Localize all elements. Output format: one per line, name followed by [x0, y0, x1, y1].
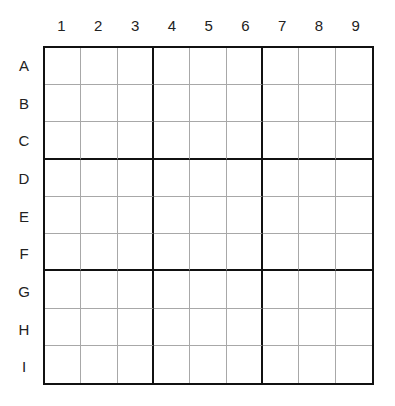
grid-cell[interactable]: [227, 234, 263, 271]
grid-cell[interactable]: [45, 85, 81, 122]
grid-cell[interactable]: [336, 122, 372, 159]
grid-cell[interactable]: [299, 160, 335, 197]
grid-cell[interactable]: [263, 122, 299, 159]
grid-cell[interactable]: [118, 85, 154, 122]
column-label: 6: [227, 17, 264, 34]
grid-cell[interactable]: [45, 122, 81, 159]
row-label: I: [14, 348, 34, 386]
grid-cell[interactable]: [45, 346, 81, 383]
grid-cell[interactable]: [263, 346, 299, 383]
grid-cell[interactable]: [81, 48, 117, 85]
row-label: B: [14, 85, 34, 123]
grid-cell[interactable]: [336, 160, 372, 197]
row-label: G: [14, 273, 34, 311]
grid-cell[interactable]: [299, 234, 335, 271]
grid-cell[interactable]: [81, 122, 117, 159]
grid-cell[interactable]: [263, 160, 299, 197]
grid-cell[interactable]: [336, 197, 372, 234]
grid-cell[interactable]: [190, 271, 226, 308]
grid-cell[interactable]: [154, 160, 190, 197]
grid-cell[interactable]: [227, 309, 263, 346]
grid-cell[interactable]: [81, 346, 117, 383]
grid-cell[interactable]: [81, 271, 117, 308]
grid-cell[interactable]: [81, 234, 117, 271]
grid-cell[interactable]: [81, 197, 117, 234]
grid-cell[interactable]: [227, 346, 263, 383]
grid-cell[interactable]: [190, 122, 226, 159]
grid-cell[interactable]: [154, 197, 190, 234]
grid-cell[interactable]: [336, 48, 372, 85]
grid-cell[interactable]: [118, 160, 154, 197]
grid-cell[interactable]: [263, 85, 299, 122]
grid-cell[interactable]: [227, 160, 263, 197]
grid-cell[interactable]: [299, 197, 335, 234]
grid-cell[interactable]: [81, 85, 117, 122]
grid-cell[interactable]: [190, 234, 226, 271]
grid-cell[interactable]: [299, 48, 335, 85]
row-label: E: [14, 198, 34, 236]
grid-cell[interactable]: [81, 309, 117, 346]
grid-cell[interactable]: [190, 309, 226, 346]
grid-cell[interactable]: [227, 197, 263, 234]
grid-cell[interactable]: [154, 271, 190, 308]
grid-cell[interactable]: [336, 346, 372, 383]
grid-cell[interactable]: [299, 346, 335, 383]
grid-cell[interactable]: [154, 234, 190, 271]
row-label: H: [14, 311, 34, 349]
grid-cell[interactable]: [154, 309, 190, 346]
column-label: 1: [43, 17, 80, 34]
grid-cell[interactable]: [336, 85, 372, 122]
column-label: 4: [153, 17, 190, 34]
grid-cell[interactable]: [45, 234, 81, 271]
grid-cell[interactable]: [81, 160, 117, 197]
grid-cell[interactable]: [118, 122, 154, 159]
grid-cell[interactable]: [227, 271, 263, 308]
grid-cell[interactable]: [299, 271, 335, 308]
column-label: 9: [337, 17, 374, 34]
grid-cell[interactable]: [45, 48, 81, 85]
grid-cell[interactable]: [299, 85, 335, 122]
grid-cell[interactable]: [118, 48, 154, 85]
grid-cell[interactable]: [190, 197, 226, 234]
grid-cell[interactable]: [45, 271, 81, 308]
grid-cell[interactable]: [45, 309, 81, 346]
column-label: 3: [117, 17, 154, 34]
grid-cell[interactable]: [118, 309, 154, 346]
grid-cell[interactable]: [263, 271, 299, 308]
grid-cell[interactable]: [336, 234, 372, 271]
grid-cell[interactable]: [154, 122, 190, 159]
row-label: D: [14, 160, 34, 198]
column-label: 2: [80, 17, 117, 34]
grid-cell[interactable]: [154, 48, 190, 85]
grid-cell[interactable]: [263, 48, 299, 85]
grid-cell[interactable]: [227, 85, 263, 122]
grid-cell[interactable]: [299, 122, 335, 159]
grid-cell[interactable]: [154, 85, 190, 122]
column-label: 5: [190, 17, 227, 34]
grid-cell[interactable]: [263, 197, 299, 234]
grid-cell[interactable]: [336, 309, 372, 346]
grid-cell[interactable]: [45, 160, 81, 197]
grid-cell[interactable]: [118, 346, 154, 383]
grid-cell[interactable]: [263, 309, 299, 346]
grid-cell[interactable]: [227, 122, 263, 159]
grid-cell[interactable]: [118, 197, 154, 234]
sudoku-grid: [43, 46, 374, 385]
grid-cell[interactable]: [45, 197, 81, 234]
column-label: 8: [300, 17, 337, 34]
grid-cell[interactable]: [190, 48, 226, 85]
grid-cell[interactable]: [299, 309, 335, 346]
grid-cell[interactable]: [263, 234, 299, 271]
column-label: 7: [264, 17, 301, 34]
grid-cell[interactable]: [118, 234, 154, 271]
grid-cell[interactable]: [118, 271, 154, 308]
row-label: C: [14, 122, 34, 160]
grid-cell[interactable]: [190, 346, 226, 383]
row-label: F: [14, 235, 34, 273]
grid-cell[interactable]: [190, 85, 226, 122]
grid-cell[interactable]: [154, 346, 190, 383]
grid-cell[interactable]: [336, 271, 372, 308]
grid-cell[interactable]: [227, 48, 263, 85]
grid-cell[interactable]: [190, 160, 226, 197]
row-label: A: [14, 47, 34, 85]
